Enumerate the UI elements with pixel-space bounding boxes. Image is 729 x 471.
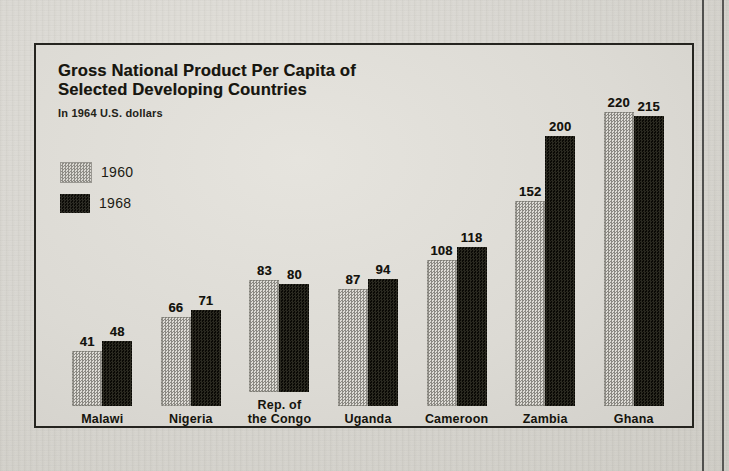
category-label: Ghana [614, 412, 654, 426]
bar-item: 41 [72, 96, 102, 406]
bar-value-label: 83 [257, 264, 272, 277]
page-column-rule [702, 0, 704, 471]
bar-item: 220 [604, 96, 634, 406]
bar-group: 8794Uganda [324, 74, 413, 426]
bar-value-label: 41 [80, 335, 95, 348]
bar-value-label: 71 [198, 294, 213, 307]
bar-item: 152 [515, 96, 545, 406]
bar-item: 94 [368, 96, 398, 406]
category-label: Nigeria [169, 412, 213, 426]
bar-item: 66 [161, 96, 191, 406]
bar-value-label: 152 [519, 185, 541, 198]
bar-1960 [427, 260, 457, 406]
chart-frame: Gross National Product Per Capita of Sel… [34, 43, 694, 428]
bar-group: 8380Rep. of the Congo [235, 74, 324, 426]
bar-value-label: 215 [638, 100, 660, 113]
bar-group: 220215Ghana [589, 74, 678, 426]
bar-1968 [545, 136, 575, 406]
category-label: Uganda [345, 412, 392, 426]
category-label: Cameroon [425, 412, 488, 426]
bar-group: 4148Malawi [58, 74, 147, 426]
bar-item: 80 [279, 82, 309, 392]
bar-value-label: 80 [287, 268, 302, 281]
bar-item: 200 [545, 96, 575, 406]
bar-1968 [191, 310, 221, 406]
bar-value-label: 94 [376, 263, 391, 276]
bar-value-label: 118 [461, 231, 483, 244]
bar-item: 48 [102, 96, 132, 406]
bar-group: 152200Zambia [501, 74, 590, 426]
bar-value-label: 220 [608, 96, 630, 109]
bar-group: 6671Nigeria [147, 74, 236, 426]
bar-item: 87 [338, 96, 368, 406]
bar-1968 [634, 116, 664, 406]
bar-pair: 108118 [427, 96, 487, 406]
bar-pair: 220215 [604, 96, 664, 406]
bar-pair: 8380 [249, 82, 309, 392]
bar-value-label: 87 [346, 273, 361, 286]
bar-value-label: 48 [110, 325, 125, 338]
bar-1960 [249, 280, 279, 392]
bar-pair: 4148 [72, 96, 132, 406]
bar-groups: 4148Malawi6671Nigeria8380Rep. of the Con… [58, 74, 678, 426]
bar-pair: 152200 [515, 96, 575, 406]
bar-value-label: 66 [168, 301, 183, 314]
bar-pair: 6671 [161, 96, 221, 406]
page-edge-rule [722, 0, 724, 471]
category-label: Malawi [81, 412, 123, 426]
plot-area: 4148Malawi6671Nigeria8380Rep. of the Con… [58, 85, 678, 426]
bar-value-label: 200 [549, 120, 571, 133]
bar-item: 215 [634, 96, 664, 406]
bar-item: 71 [191, 96, 221, 406]
bar-1960 [72, 351, 102, 406]
bar-1960 [604, 112, 634, 406]
bar-1968 [457, 247, 487, 406]
bar-1968 [102, 341, 132, 406]
bar-item: 83 [249, 82, 279, 392]
bar-item: 108 [427, 96, 457, 406]
bar-group: 108118Cameroon [412, 74, 501, 426]
bar-value-label: 108 [430, 244, 452, 257]
bar-1968 [368, 279, 398, 406]
category-label: Rep. of the Congo [248, 398, 312, 426]
bar-pair: 8794 [338, 96, 398, 406]
bar-item: 118 [457, 96, 487, 406]
bar-1968 [279, 284, 309, 392]
bar-1960 [515, 201, 545, 406]
category-label: Zambia [523, 412, 568, 426]
bar-1960 [161, 317, 191, 406]
bar-1960 [338, 289, 368, 406]
